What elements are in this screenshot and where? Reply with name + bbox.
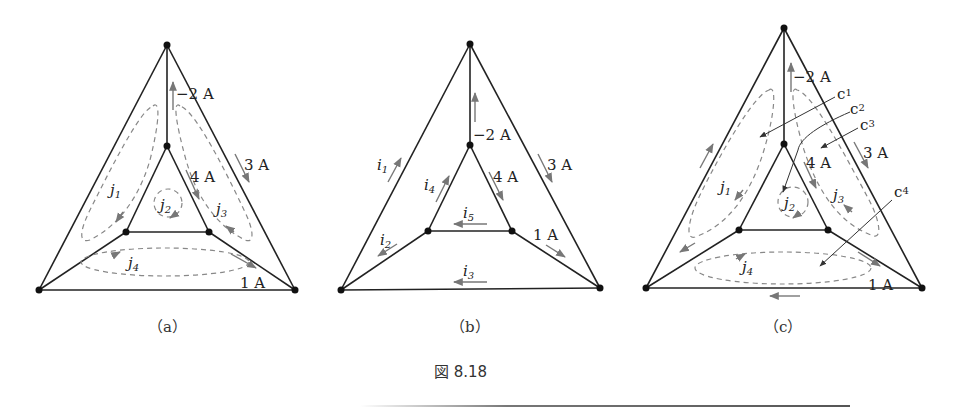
label-1a: 1 A [240, 274, 265, 292]
label-3a: 3 A [547, 156, 572, 174]
callout-c3: c3 [860, 116, 875, 134]
current-i4: i4 [424, 176, 435, 195]
loop-j4: j4 [739, 258, 753, 277]
loop-j2: j2 [157, 196, 171, 215]
labels: −2 A 3 A 4 A 1 A j1 j2 j3 j4 （a） [107, 85, 269, 336]
panel-b-label: （b） [450, 318, 490, 336]
callout-c4: c4 [894, 183, 909, 201]
loop-j3: j3 [830, 186, 844, 205]
panel-c: −2 A 3 A 4 A 1 A j1 j2 j3 j4 c1 c2 c3 c4… [643, 25, 926, 337]
figure-caption: 図 8.18 [434, 360, 487, 381]
panel-b: −2 A 3 A 4 A 1 A i1 i2 i3 i4 i5 （b） [338, 41, 604, 337]
current-i2: i2 [380, 231, 391, 250]
current-i5: i5 [463, 204, 474, 223]
panel-a: −2 A 3 A 4 A 1 A j1 j2 j3 j4 （a） [36, 42, 299, 337]
label-4a: 4 A [806, 154, 831, 172]
label-3a: 3 A [863, 144, 888, 162]
label-minus-2a: −2 A [473, 126, 511, 144]
current-arrows [378, 93, 565, 282]
loop-j1: j1 [107, 181, 121, 200]
figure-canvas: −2 A 3 A 4 A 1 A j1 j2 j3 j4 （a） [0, 0, 954, 418]
current-i1: i1 [377, 156, 388, 175]
divider-rule [360, 405, 850, 407]
label-minus-2a: −2 A [793, 68, 831, 86]
current-i3: i3 [463, 262, 474, 281]
label-4a: 4 A [190, 168, 215, 186]
label-minus-2a: −2 A [176, 85, 214, 103]
panel-c-label: （c） [764, 318, 802, 336]
panel-a-label: （a） [148, 318, 187, 336]
label-1a: 1 A [533, 226, 558, 244]
loop-j3: j3 [213, 200, 227, 219]
label-1a: 1 A [868, 276, 893, 294]
label-3a: 3 A [244, 156, 269, 174]
loop-j1: j1 [717, 178, 731, 197]
label-4a: 4 A [493, 168, 518, 186]
loop-j2: j2 [781, 194, 795, 213]
loop-j4: j4 [125, 254, 139, 273]
